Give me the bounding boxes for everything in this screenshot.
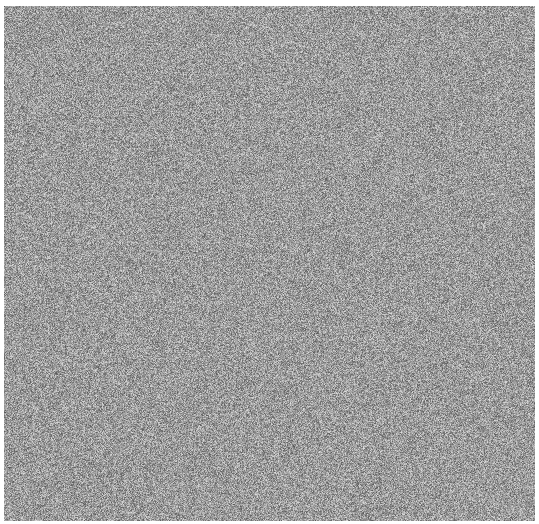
noise-texture [4, 6, 535, 521]
noise-image-frame [0, 0, 539, 524]
noise-canvas [4, 6, 535, 521]
